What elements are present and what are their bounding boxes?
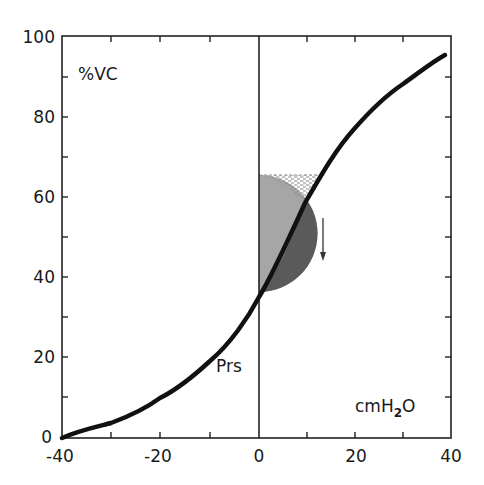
x-tick-label: 0: [254, 446, 265, 466]
y-axis-unit-label: %VC: [78, 64, 118, 84]
y-tick-label: 0: [41, 427, 52, 447]
y-axis-ticks-left: [62, 77, 68, 397]
y-tick-label: 20: [33, 347, 55, 367]
y-tick-labels: 0 20 40 60 80 100: [23, 27, 55, 447]
x-tick-label: 20: [345, 446, 367, 466]
prs-curve: [62, 55, 445, 438]
y-tick-label: 60: [33, 187, 55, 207]
curve-label-prs: Prs: [216, 356, 242, 376]
x-axis-unit-label: cmH2O: [355, 396, 415, 420]
y-tick-label: 40: [33, 267, 55, 287]
down-arrow-icon: [320, 218, 326, 261]
x-axis-ticks-bottom: [111, 432, 403, 438]
x-tick-label: -40: [46, 446, 74, 466]
plot-frame: [62, 36, 451, 438]
y-tick-label: 100: [23, 27, 55, 47]
x-axis-ticks-top: [111, 36, 403, 42]
x-tick-label: 40: [440, 446, 462, 466]
x-tick-label: -20: [144, 446, 172, 466]
y-tick-label: 80: [33, 107, 55, 127]
x-tick-labels: -40 -20 0 20 40: [46, 446, 462, 466]
pressure-volume-chart: 0 20 40 60 80 100 -40 -20 0 20 40 %VC Pr…: [0, 0, 484, 485]
x-unit-main: cmH: [355, 396, 394, 416]
x-unit-end: O: [402, 396, 415, 416]
x-unit-subscript: 2: [394, 406, 402, 420]
y-axis-ticks-right: [445, 77, 451, 397]
